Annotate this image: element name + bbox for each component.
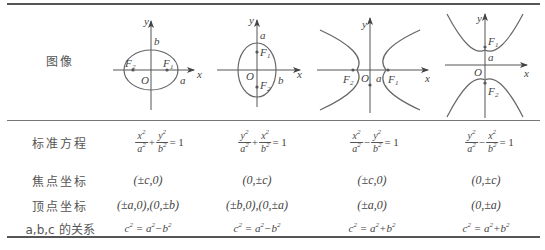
conic-graphs: y x O b a F 2 F 1 y x O a b F 1 F 2 y x [0,0,545,250]
svg-text:F: F [259,46,267,58]
focus-point [386,68,389,71]
graph-ellipse-horizontal: y x O b a F 2 F 1 [113,15,202,110]
svg-text:2: 2 [350,79,354,87]
svg-text:y: y [476,12,482,24]
svg-text:1: 1 [395,79,399,87]
foci-hyperbola-horizontal: (±c,0) [358,173,387,188]
focus-point [483,81,486,84]
focus-point [255,50,258,53]
svg-text:y: y [361,18,367,30]
equation-ellipse-horizontal: x2a2+y2b2= 1 [135,130,185,154]
svg-text:x: x [196,68,202,80]
svg-text:a: a [260,29,266,41]
svg-text:a: a [488,51,494,63]
graph-hyperbola-vertical: y x O a F 1 F 2 [445,12,529,118]
svg-text:1: 1 [267,52,271,60]
svg-text:y: y [143,15,149,27]
svg-text:1: 1 [495,41,499,49]
vertices-ellipse-horizontal: (±a,0),(0,±b) [117,198,179,213]
vertices-hyperbola-horizontal: (±a,0) [357,198,387,213]
svg-text:O: O [246,70,254,82]
vertices-ellipse-vertical: (±b,0),(0,±a) [226,198,288,213]
graph-hyperbola-horizontal: y x O a F 2 F 1 [317,18,430,113]
svg-text:2: 2 [267,85,271,93]
equation-ellipse-vertical: y2a2+x2b2= 1 [238,130,288,154]
svg-text:x: x [296,68,302,80]
svg-text:1: 1 [170,63,174,71]
focus-point [255,85,258,88]
svg-text:F: F [162,57,170,69]
svg-text:2: 2 [495,91,499,99]
svg-text:F: F [387,73,395,85]
relation-ellipse-vertical: c2 = a2−b2 [234,222,281,234]
equation-hyperbola-vertical: y2a2−x2b2= 1 [465,130,515,154]
svg-text:b: b [278,74,284,86]
svg-text:F: F [342,73,350,85]
svg-text:O: O [361,72,369,84]
focus-point [351,68,354,71]
equation-hyperbola-horizontal: x2a2−y2b2= 1 [350,130,400,154]
svg-text:a: a [180,74,186,86]
foci-ellipse-horizontal: (±c,0) [134,173,163,188]
relation-ellipse-horizontal: c2 = a2−b2 [125,222,172,234]
svg-text:F: F [259,79,267,91]
focus-point [483,45,486,48]
foci-ellipse-vertical: (0,±c) [243,173,272,188]
svg-text:O: O [474,66,482,78]
svg-text:y: y [248,14,254,26]
graph-ellipse-vertical: y x O a b F 1 F 2 [217,14,302,107]
relation-hyperbola-horizontal: c2 = a2+b2 [349,222,396,234]
vertices-hyperbola-vertical: (0,±a) [471,198,501,213]
svg-text:O: O [141,74,149,86]
svg-text:x: x [523,67,529,79]
svg-text:F: F [487,35,495,47]
svg-text:x: x [424,72,430,84]
svg-text:b: b [154,35,160,47]
svg-text:2: 2 [132,63,136,71]
relation-hyperbola-vertical: c2 = a2+b2 [463,222,510,234]
svg-text:F: F [487,85,495,97]
svg-text:F: F [124,57,132,69]
foci-hyperbola-vertical: (0,±c) [472,173,501,188]
svg-text:a: a [376,72,382,84]
